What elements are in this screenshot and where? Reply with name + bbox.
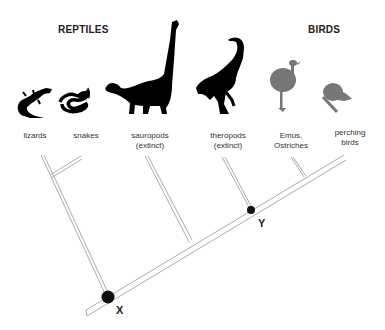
cladogram: [0, 0, 385, 330]
node-y-label: Y: [258, 217, 265, 229]
node-x-marker: [102, 291, 115, 304]
branch-lizards: [41, 155, 109, 296]
branch-snakes: [50, 156, 82, 178]
branch-sauropods: [145, 156, 192, 242]
branch-theropods: [222, 157, 252, 209]
main-trunk: [86, 155, 346, 316]
node-y-marker: [247, 206, 255, 214]
branch-emus: [291, 157, 306, 177]
node-x-label: X: [116, 304, 123, 316]
